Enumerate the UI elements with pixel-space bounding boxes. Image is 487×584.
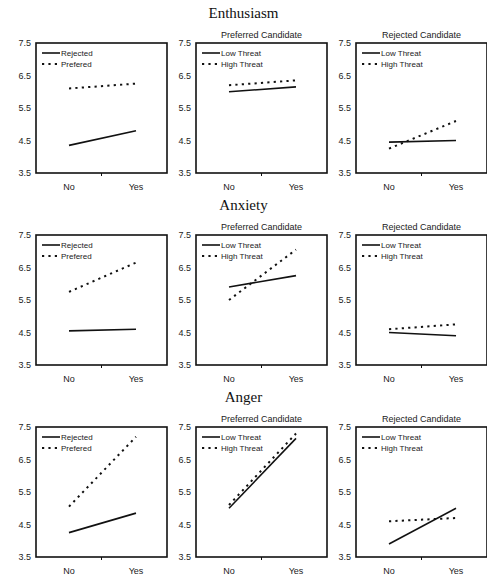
y-tick-label: 6.5	[18, 71, 31, 81]
y-tick-label: 6.5	[18, 455, 31, 465]
legend-label: Prefered	[61, 252, 92, 261]
plot-frame	[36, 427, 167, 557]
chart-panel: Rejected Candidate3.54.55.56.57.5NoYesLo…	[338, 414, 487, 576]
series-line	[389, 121, 456, 149]
panel-title: Rejected Candidate	[382, 222, 461, 232]
y-tick-label: 5.5	[338, 103, 351, 113]
legend-label: High Threat	[221, 444, 263, 453]
panel-title: Rejected Candidate	[382, 30, 461, 40]
y-tick-label: 4.5	[178, 328, 191, 338]
legend-label: Prefered	[61, 60, 92, 69]
y-tick-label: 6.5	[338, 455, 351, 465]
x-tick-label: No	[383, 182, 395, 192]
y-tick-label: 3.5	[18, 168, 31, 178]
chart-grid: 3.54.55.56.57.5NoYesRejectedPreferedPref…	[0, 0, 487, 584]
legend-label: High Threat	[381, 60, 423, 69]
y-tick-label: 4.5	[338, 520, 351, 530]
panel-title: Preferred Candidate	[221, 30, 302, 40]
x-tick-label: Yes	[289, 374, 304, 384]
y-tick-label: 3.5	[18, 360, 31, 370]
y-tick-label: 3.5	[178, 168, 191, 178]
y-tick-label: 3.5	[178, 360, 191, 370]
series-line	[389, 333, 456, 336]
series-line	[389, 141, 456, 143]
legend-label: Low Threat	[221, 49, 262, 58]
x-tick-label: Yes	[449, 374, 464, 384]
series-line	[389, 508, 456, 544]
series-line	[229, 80, 296, 85]
x-tick-label: Yes	[449, 566, 464, 576]
panel-title: Preferred Candidate	[221, 414, 302, 424]
legend-label: Low Threat	[221, 241, 262, 250]
legend-label: Rejected	[61, 433, 93, 442]
chart-panel: 3.54.55.56.57.5NoYesRejectedPrefered	[18, 422, 167, 576]
legend-label: Low Threat	[381, 241, 422, 250]
x-tick-label: No	[63, 374, 75, 384]
x-tick-label: Yes	[449, 182, 464, 192]
legend-label: High Threat	[381, 444, 423, 453]
chart-panel: Preferred Candidate3.54.55.56.57.5NoYesL…	[178, 222, 327, 384]
legend-label: High Threat	[381, 252, 423, 261]
legend-label: Rejected	[61, 49, 93, 58]
legend-label: Low Threat	[381, 433, 422, 442]
x-tick-label: Yes	[289, 566, 304, 576]
x-tick-label: No	[63, 566, 75, 576]
legend-label: High Threat	[221, 252, 263, 261]
y-tick-label: 7.5	[178, 38, 191, 48]
series-line	[69, 513, 136, 533]
x-tick-label: Yes	[129, 566, 144, 576]
x-tick-label: Yes	[289, 182, 304, 192]
y-tick-label: 6.5	[18, 263, 31, 273]
x-tick-label: No	[63, 182, 75, 192]
x-tick-label: No	[223, 566, 235, 576]
y-tick-label: 3.5	[18, 552, 31, 562]
series-line	[69, 329, 136, 331]
y-tick-label: 5.5	[18, 487, 31, 497]
series-line	[69, 263, 136, 292]
y-tick-label: 7.5	[338, 422, 351, 432]
y-tick-label: 6.5	[338, 71, 351, 81]
y-tick-label: 3.5	[338, 552, 351, 562]
legend-label: High Threat	[221, 60, 263, 69]
y-tick-label: 4.5	[338, 136, 351, 146]
y-tick-label: 7.5	[338, 230, 351, 240]
y-tick-label: 4.5	[338, 328, 351, 338]
y-tick-label: 6.5	[178, 71, 191, 81]
y-tick-label: 7.5	[18, 230, 31, 240]
y-tick-label: 7.5	[178, 230, 191, 240]
y-tick-label: 4.5	[178, 136, 191, 146]
x-tick-label: Yes	[129, 374, 144, 384]
y-tick-label: 3.5	[338, 360, 351, 370]
chart-panel: Rejected Candidate3.54.55.56.57.5NoYesLo…	[338, 30, 487, 192]
y-tick-label: 5.5	[178, 103, 191, 113]
chart-panel: Rejected Candidate3.54.55.56.57.5NoYesLo…	[338, 222, 487, 384]
y-tick-label: 3.5	[178, 552, 191, 562]
chart-panel: 3.54.55.56.57.5NoYesRejectedPrefered	[18, 230, 167, 384]
legend-label: Low Threat	[221, 433, 262, 442]
legend-label: Low Threat	[381, 49, 422, 58]
y-tick-label: 7.5	[18, 422, 31, 432]
y-tick-label: 4.5	[178, 520, 191, 530]
x-tick-label: Yes	[129, 182, 144, 192]
x-tick-label: No	[383, 374, 395, 384]
y-tick-label: 7.5	[18, 38, 31, 48]
series-line	[389, 518, 456, 521]
y-tick-label: 4.5	[18, 136, 31, 146]
plot-frame	[36, 43, 167, 173]
y-tick-label: 7.5	[338, 38, 351, 48]
panel-title: Preferred Candidate	[221, 222, 302, 232]
panel-title: Rejected Candidate	[382, 414, 461, 424]
series-line	[69, 131, 136, 146]
y-tick-label: 4.5	[18, 520, 31, 530]
y-tick-label: 7.5	[178, 422, 191, 432]
y-tick-label: 4.5	[18, 328, 31, 338]
y-tick-label: 5.5	[338, 295, 351, 305]
series-line	[229, 87, 296, 92]
y-tick-label: 6.5	[338, 263, 351, 273]
y-tick-label: 5.5	[178, 487, 191, 497]
legend-label: Prefered	[61, 444, 92, 453]
y-tick-label: 5.5	[18, 103, 31, 113]
x-tick-label: No	[223, 374, 235, 384]
y-tick-label: 3.5	[338, 168, 351, 178]
series-line	[69, 84, 136, 89]
